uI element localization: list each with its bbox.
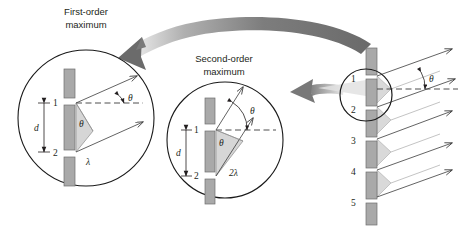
slit-bar [64,69,75,98]
grating-rays [377,49,455,197]
grating-theta-label: θ [429,74,434,84]
slit-bar [64,157,75,186]
figure-canvas: First-order maximum θ θ λ [0,0,460,232]
grating-slit-label-2: 2 [351,105,356,115]
second-order-callout: Second-order maximum θ θ 2λ 1 2 d [167,53,283,204]
grating-slit-label-3: 3 [351,136,356,146]
second-order-title-line1: Second-order [195,53,253,64]
first-order-spacing-label: d [34,123,39,133]
slit-bar [205,131,215,172]
first-order-slit-bars [64,69,75,186]
first-order-theta-axis-label: θ [128,93,133,103]
grating-wedge [377,139,391,166]
slit-bar [205,179,215,204]
grating-ray-secondary [391,134,440,152]
second-order-spacing-label: d [176,148,181,158]
grating-wedge [377,107,391,134]
second-order-title-line2: maximum [203,66,244,77]
second-order-theta-wedge-label: θ [219,138,224,148]
grating-bar [366,79,377,106]
diffraction-grating-figure: First-order maximum θ θ λ [0,0,460,232]
first-order-title-line1: First-order [64,6,108,17]
first-order-title-line2: maximum [65,19,106,30]
slit-bar [64,105,75,150]
grating-assembly: θ 1 2 3 4 5 [318,48,458,225]
grating-slit-label-5: 5 [351,198,356,208]
grating-bar [366,172,377,199]
second-order-slit-label-top: 1 [194,125,199,135]
second-order-path-difference-label: 2λ [229,168,238,178]
grating-ray [377,143,452,170]
grating-ray-secondary [391,165,440,183]
grating-ray [377,111,452,139]
second-order-slit-label-bottom: 2 [194,171,199,181]
slit-bar [205,98,215,124]
grating-wedge [377,76,391,103]
grating-bars [366,48,377,225]
grating-ray [377,49,452,76]
callout-arrow-second-order [290,79,344,103]
first-order-callout: First-order maximum θ θ λ [18,6,154,186]
grating-theta-arc [421,72,425,89]
grating-slit-label-1: 1 [351,74,356,84]
grating-bar [366,203,377,225]
first-order-slit-label-bottom: 2 [53,148,58,158]
grating-bar [366,110,377,137]
second-order-slit-bars [205,98,215,204]
first-order-slit-label-top: 1 [53,98,58,108]
grating-bar [366,141,377,168]
second-order-theta-axis-label: θ [250,106,255,116]
first-order-path-difference-label: λ [85,157,90,167]
first-order-theta-wedge-label: θ [79,119,84,129]
grating-ray-secondary [391,102,440,120]
grating-slit-label-4: 4 [351,167,356,177]
